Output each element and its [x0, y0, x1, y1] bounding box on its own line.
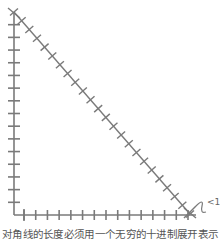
remainder-brace: [196, 202, 206, 212]
right-triangle-diagram: <1: [0, 0, 224, 225]
remainder-label: <1: [207, 197, 220, 207]
diagonal-hypotenuse: [8, 8, 196, 218]
caption: 对角线的长度必须用一个无穷的十进制展开表示: [2, 228, 224, 239]
vertical-leg: [8, 12, 24, 221]
horizontal-leg: [14, 210, 196, 220]
